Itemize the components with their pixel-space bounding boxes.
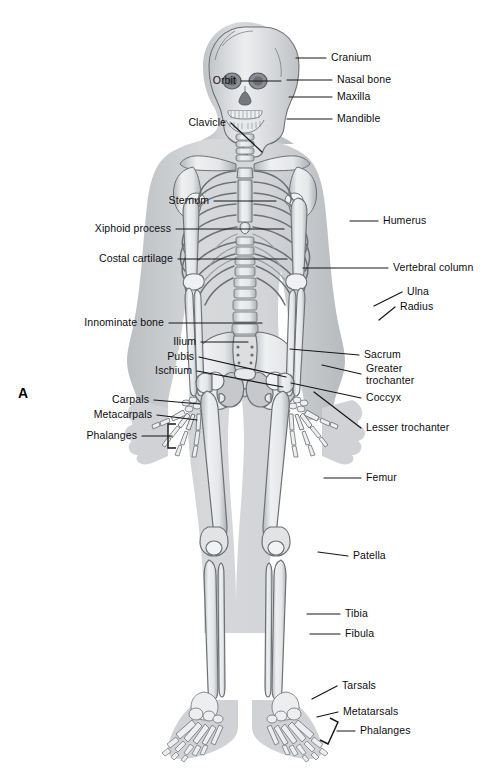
xiphoid-process-shape	[240, 223, 250, 235]
label-radius: Radius	[400, 301, 433, 313]
label-ilium: Ilium	[173, 336, 196, 348]
label-sacrum: Sacrum	[364, 349, 401, 361]
label-costal-cartilage: Costal cartilage	[99, 253, 173, 265]
label-cranium: Cranium	[331, 52, 371, 64]
greater-trochanter-left	[196, 373, 212, 393]
label-clavicle: Clavicle	[188, 117, 226, 129]
thoracic-lumbar-vertebrae	[232, 237, 258, 334]
tarsals-right	[267, 692, 301, 723]
label-metacarpals: Metacarpals	[94, 409, 152, 421]
label-orbit: Orbit	[213, 75, 236, 87]
label-pubis: Pubis	[167, 351, 194, 363]
label-lesser-trochanter: Lesser trochanter	[366, 422, 449, 434]
pubic-symphysis	[235, 369, 256, 381]
elbow-right	[286, 274, 307, 290]
label-humerus: Humerus	[383, 215, 426, 227]
fibula-left	[218, 563, 225, 697]
label-metatarsals: Metatarsals	[343, 706, 398, 718]
skeleton-illustration	[0, 0, 490, 783]
label-nasal-bone: Nasal bone	[337, 74, 391, 86]
skeleton-figure: A OrbitClavicleSternumXiphoid processCos…	[0, 0, 490, 783]
elbow-left	[183, 274, 204, 290]
label-tibia: Tibia	[345, 608, 368, 620]
lesser-trochanter-left	[219, 394, 225, 403]
tibia-right	[272, 560, 286, 700]
greater-trochanter-right	[278, 373, 294, 393]
panel-letter: A	[18, 385, 28, 401]
label-phalanges-hand: Phalanges	[86, 430, 137, 442]
label-maxilla: Maxilla	[337, 91, 370, 103]
label-patella: Patella	[353, 550, 386, 562]
label-vertebral-column: Vertebral column	[393, 262, 473, 274]
label-ischium: Ischium	[155, 365, 192, 377]
label-phalanges-foot: Phalanges	[360, 725, 411, 737]
label-ulna: Ulna	[407, 286, 429, 298]
label-xiphoid-process: Xiphoid process	[95, 223, 171, 235]
label-femur: Femur	[366, 472, 397, 484]
lesser-trochanter-right	[265, 394, 271, 403]
fibula-right	[265, 563, 272, 697]
label-tarsals: Tarsals	[342, 680, 376, 692]
label-fibula: Fibula	[345, 628, 374, 640]
tibia-left	[204, 560, 218, 700]
patella-left	[206, 541, 222, 555]
label-innominate-bone: Innominate bone	[84, 317, 164, 329]
label-greater-trochanter: Greatertrochanter	[366, 362, 414, 386]
patella-right	[268, 541, 284, 555]
label-coccyx: Coccyx	[366, 392, 401, 404]
label-sternum: Sternum	[169, 195, 209, 207]
label-mandible: Mandible	[337, 113, 380, 125]
tarsals-left	[189, 692, 223, 723]
label-carpals: Carpals	[112, 394, 149, 406]
